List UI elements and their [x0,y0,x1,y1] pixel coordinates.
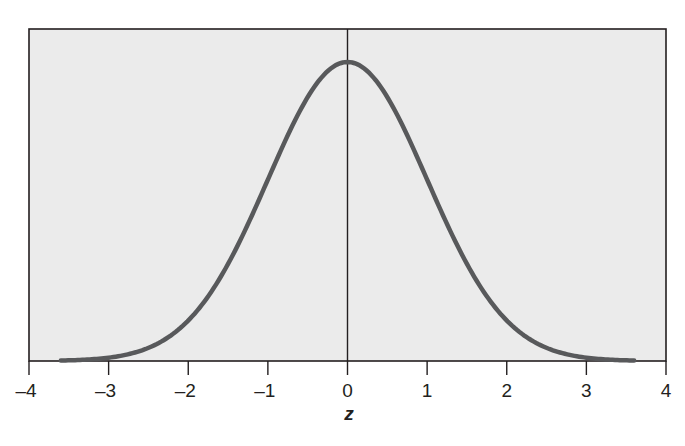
x-tick-label: –1 [254,380,275,401]
x-axis-label: z [343,403,354,424]
x-tick-label: 0 [342,380,353,401]
x-tick-label: 4 [661,380,672,401]
x-axis-ticks [29,361,666,375]
x-tick-label: 3 [581,380,592,401]
x-tick-label: 2 [501,380,512,401]
x-tick-label: –3 [95,380,116,401]
x-tick-label: 1 [422,380,433,401]
x-tick-label: –2 [175,380,196,401]
x-tick-label: –4 [15,380,37,401]
normal-distribution-chart: –4–3–2–101234 z [0,0,685,446]
x-axis-tick-labels: –4–3–2–101234 [15,380,671,401]
